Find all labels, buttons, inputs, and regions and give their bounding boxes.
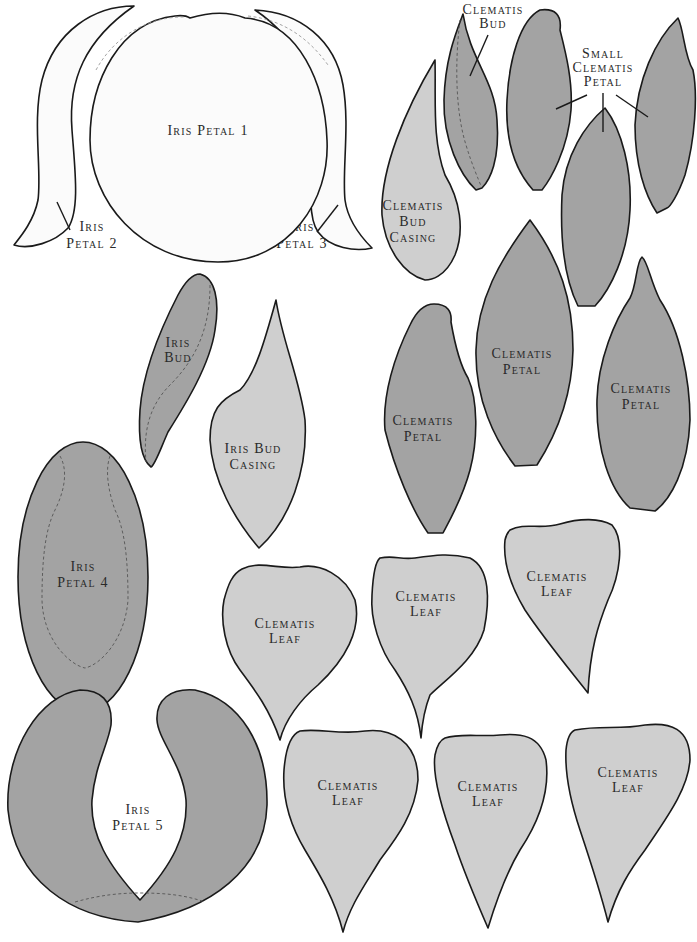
clematis-leaf-4-label-line1: Clematis <box>317 778 378 793</box>
small-clematis-petal-left-piece <box>507 10 572 190</box>
pattern-diagram: Iris Petal 2 Iris Petal 3 Iris Petal 1 C… <box>0 0 697 942</box>
clematis-leaf-3-piece: Clematis Leaf <box>505 520 620 693</box>
clematis-leaf-6-label-line1: Clematis <box>597 765 658 780</box>
clematis-leaf-2-label-line2: Leaf <box>410 604 442 619</box>
iris-bud-piece: Iris Bud <box>139 274 216 467</box>
clematis-leaf-6-label-line2: Leaf <box>612 780 644 795</box>
small-clematis-petal-label-line1: Small <box>582 46 624 61</box>
iris-petal-4-label-line2: Petal 4 <box>57 575 108 590</box>
clematis-bud-label-line1: Clematis <box>462 2 523 17</box>
clematis-leaf-5-piece: Clematis Leaf <box>434 734 546 928</box>
clematis-leaf-1-label-line2: Leaf <box>269 631 301 646</box>
clematis-leaf-2-label-line1: Clematis <box>395 589 456 604</box>
clematis-leaf-4-piece: Clematis Leaf <box>284 730 418 932</box>
iris-petal-1-piece: Iris Petal 1 <box>90 14 328 263</box>
iris-petal-5-piece: Iris Petal 5 <box>8 690 267 922</box>
clematis-leaf-1-label-line1: Clematis <box>254 616 315 631</box>
clematis-leaf-1-piece: Clematis Leaf <box>223 565 357 740</box>
clematis-bud-casing-label-line1: Clematis <box>382 198 443 213</box>
small-clematis-petal-right-piece <box>635 18 695 213</box>
clematis-petal-c-piece: Clematis Petal <box>597 257 690 511</box>
pattern-sheet: Iris Petal 2 Iris Petal 3 Iris Petal 1 C… <box>0 0 697 942</box>
iris-bud-casing-piece: Iris Bud Casing <box>210 300 305 548</box>
iris-petal-5-label-line1: Iris <box>125 802 150 817</box>
iris-petal-2-label-line1: Iris <box>79 219 104 234</box>
iris-petal-5-label-line2: Petal 5 <box>112 818 163 833</box>
clematis-leaf-2-piece: Clematis Leaf <box>372 555 488 738</box>
clematis-petal-b-label-line1: Clematis <box>491 346 552 361</box>
clematis-leaf-6-piece: Clematis Leaf <box>566 724 690 922</box>
clematis-petal-c-label-line2: Petal <box>622 397 661 412</box>
iris-petal-1-label: Iris Petal 1 <box>167 123 248 138</box>
iris-bud-casing-label-line1: Iris Bud <box>224 441 281 456</box>
clematis-petal-a-piece: Clematis Petal <box>385 304 476 533</box>
clematis-petal-c-label-line1: Clematis <box>610 381 671 396</box>
small-clematis-petal-center-piece <box>562 108 631 306</box>
clematis-leaf-5-label-line2: Leaf <box>472 794 504 809</box>
small-clematis-petal-label-line2: Clematis <box>572 60 633 75</box>
clematis-leaf-3-label-line2: Leaf <box>541 584 573 599</box>
clematis-petal-a-label-line1: Clematis <box>392 413 453 428</box>
clematis-petal-a-label-line2: Petal <box>404 429 443 444</box>
iris-petal-4-label-line1: Iris <box>70 559 95 574</box>
iris-bud-casing-label-line2: Casing <box>229 457 276 472</box>
clematis-bud-casing-label-line3: Casing <box>389 230 436 245</box>
small-clematis-petal-label-line3: Petal <box>584 74 623 89</box>
iris-petal-4-piece: Iris Petal 4 <box>18 442 148 712</box>
clematis-leaf-3-label-line1: Clematis <box>526 569 587 584</box>
clematis-bud-casing-label-line2: Bud <box>399 214 426 229</box>
clematis-petal-b-piece: Clematis Petal <box>476 220 573 466</box>
clematis-petal-b-label-line2: Petal <box>503 362 542 377</box>
clematis-leaf-4-label-line2: Leaf <box>332 793 364 808</box>
iris-bud-label-line1: Iris <box>165 335 190 350</box>
clematis-bud-label-line2: Bud <box>479 16 506 31</box>
clematis-leaf-5-label-line1: Clematis <box>457 779 518 794</box>
iris-petal-2-label-line2: Petal 2 <box>66 236 117 251</box>
iris-bud-label-line2: Bud <box>164 350 191 365</box>
